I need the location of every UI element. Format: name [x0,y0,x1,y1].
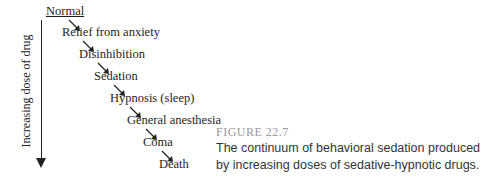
stage-death: Death [159,157,189,172]
stage-sedation: Sedation [94,69,138,84]
stage-normal: Normal [46,4,84,19]
stage-hypnosis: Hypnosis (sleep) [110,91,194,106]
stage-coma: Coma [143,135,173,150]
caption-body: The continuum of behavioral sedation pro… [216,140,496,174]
stage-relief-from-anxiety: Relief from anxiety [62,25,160,40]
stage-general-anesthesia: General anesthesia [127,113,221,128]
axis-label: Increasing dose of drug [19,35,34,148]
caption-title: FIGURE 22.7 [216,125,289,140]
axis-line [41,20,42,160]
stage-disinhibition: Disinhibition [79,47,145,62]
axis-arrowhead-icon [36,158,46,168]
